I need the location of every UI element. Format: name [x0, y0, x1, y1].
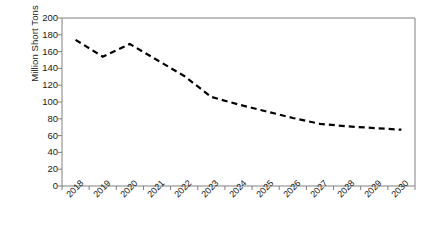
- y-axis-ticks: [58, 18, 62, 186]
- chart-container: Million Short Tons 020406080100120140160…: [0, 0, 431, 232]
- data-series-line: [76, 40, 402, 130]
